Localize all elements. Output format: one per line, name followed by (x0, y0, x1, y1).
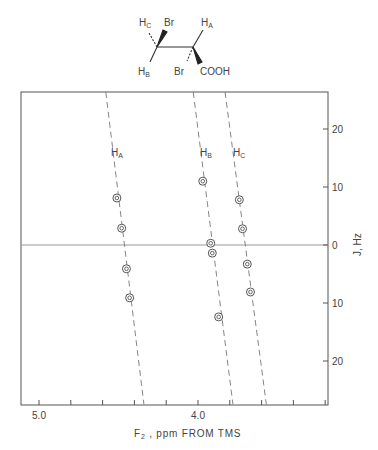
fit-line-hc (225, 92, 266, 405)
data-point (239, 225, 247, 233)
data-point (199, 177, 207, 185)
figure: HC Br HA HB Br COOH 5.04.0 201001020 HAH… (0, 0, 378, 450)
y-axis-ticks: 201001020 (323, 124, 344, 367)
bond-hc (149, 33, 157, 47)
x-tick-label: 5.0 (32, 410, 46, 421)
label-cooh: COOH (200, 66, 230, 77)
data-point (126, 294, 134, 302)
label-hb: HB (138, 66, 150, 78)
data-point (235, 196, 243, 204)
data-point (118, 224, 126, 232)
data-point (208, 249, 216, 257)
plot-frame (21, 92, 328, 405)
bond-br-bottom (187, 47, 193, 61)
x-tick-label: 4.0 (191, 410, 205, 421)
label-br-top: Br (164, 17, 175, 28)
y-tick-label: 10 (332, 298, 344, 309)
y-tick-label: 20 (332, 124, 344, 135)
data-point (246, 288, 254, 296)
series-label-hc: HC (233, 147, 245, 159)
y-tick-label: 20 (332, 356, 344, 367)
x-axis-ticks: 5.04.0 (32, 400, 325, 421)
y-tick-label: 0 (332, 240, 338, 251)
series-label-ha: HA (111, 147, 123, 159)
data-point (122, 265, 130, 273)
molecule-structure (149, 30, 203, 64)
data-point (207, 239, 215, 247)
series-labels: HAHBHC (111, 147, 245, 159)
label-hc: HC (139, 17, 151, 29)
label-ha: HA (201, 17, 213, 29)
wedge-bond-br-top (157, 30, 167, 47)
y-tick-label: 10 (332, 182, 344, 193)
fit-line-ha (106, 92, 144, 405)
wedge-bond-cooh (193, 47, 202, 64)
data-point (215, 313, 223, 321)
data-point (243, 260, 251, 268)
data-point (113, 194, 121, 202)
bond-hb (150, 47, 157, 62)
label-br-bottom: Br (174, 66, 185, 77)
fit-line-hb (193, 92, 233, 405)
y-axis-label: J, Hz (352, 233, 363, 256)
x-axis-label: F2 , ppm FROM TMS (134, 428, 241, 440)
data-points (113, 177, 255, 321)
bond-ha (193, 30, 203, 47)
fit-lines (106, 92, 267, 405)
series-label-hb: HB (200, 147, 212, 159)
